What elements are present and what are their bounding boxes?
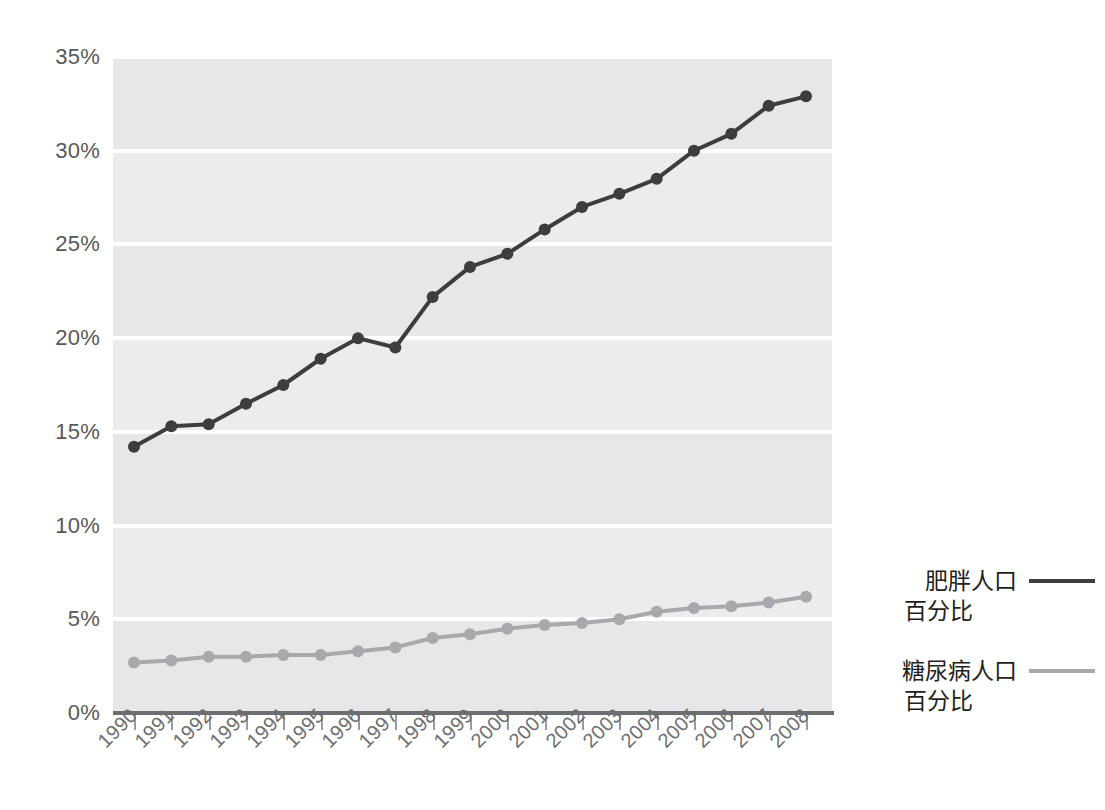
grid-band — [113, 432, 832, 526]
gridline — [113, 617, 832, 621]
plot-area — [113, 57, 832, 713]
gridline — [113, 430, 832, 434]
grid-band — [113, 526, 832, 620]
legend-label-line2: 百分比 — [860, 686, 1095, 716]
legend-row: 糖尿病人口 — [860, 656, 1095, 686]
legend-entry: 肥胖人口百分比 — [860, 566, 1095, 626]
grid-band — [113, 338, 832, 432]
y-axis-tick-label: 35% — [24, 46, 100, 68]
gridline — [113, 336, 832, 340]
chart-legend: 肥胖人口百分比糖尿病人口百分比 — [860, 566, 1095, 746]
y-axis-tick-label: 5% — [24, 608, 100, 630]
line-chart-figure: 0%5%10%15%20%25%30%35% 19901991199219931… — [0, 0, 1105, 810]
grid-band — [113, 57, 832, 151]
y-axis-tick-labels: 0%5%10%15%20%25%30%35% — [8, 0, 100, 810]
legend-color-swatch — [1029, 669, 1095, 673]
gridline — [113, 149, 832, 153]
legend-row: 肥胖人口 — [860, 566, 1095, 596]
y-axis-tick-label: 20% — [24, 327, 100, 349]
gridline — [113, 55, 832, 59]
grid-band — [113, 244, 832, 338]
y-axis-tick-label: 0% — [24, 702, 100, 724]
y-axis-tick-label: 10% — [24, 515, 100, 537]
gridline — [113, 524, 832, 528]
legend-label-line2: 百分比 — [860, 596, 1095, 626]
gridline — [113, 242, 832, 246]
legend-entry: 糖尿病人口百分比 — [860, 656, 1095, 716]
grid-band — [113, 619, 832, 713]
legend-label-line1: 肥胖人口 — [925, 566, 1017, 596]
y-axis-tick-label: 30% — [24, 140, 100, 162]
legend-color-swatch — [1029, 579, 1095, 583]
grid-band — [113, 151, 832, 245]
y-axis-tick-label: 15% — [24, 421, 100, 443]
legend-label-line1: 糖尿病人口 — [902, 656, 1017, 686]
y-axis-tick-label: 25% — [24, 233, 100, 255]
